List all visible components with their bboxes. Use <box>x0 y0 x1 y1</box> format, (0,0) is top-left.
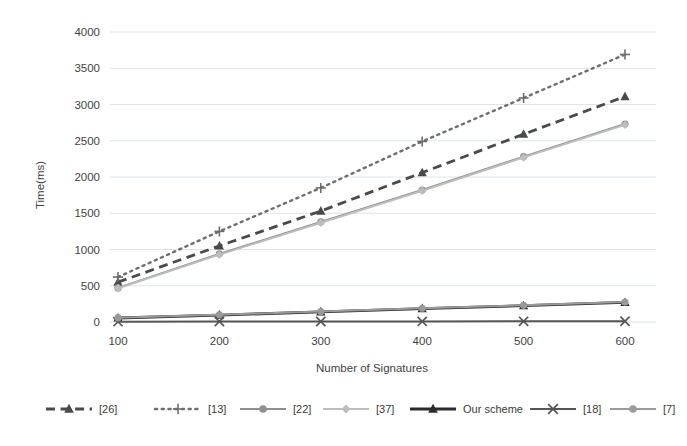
series-7 <box>114 298 628 321</box>
legend-item-37[interactable]: [37] <box>323 403 394 415</box>
chart-canvas: 05001000150020002500300035004000 1002003… <box>0 0 687 446</box>
data-point-marker <box>629 405 637 413</box>
series-line <box>118 54 625 277</box>
data-point-marker <box>215 250 223 258</box>
y-tick-label: 4000 <box>74 26 100 38</box>
series-13 <box>113 49 630 282</box>
legend-label: [7] <box>663 403 675 415</box>
x-tick-label: 200 <box>210 335 229 347</box>
data-point-marker <box>317 218 325 226</box>
data-point-marker <box>114 314 121 321</box>
chart-legend: [26][13][22][37]Our scheme[18][7] <box>46 403 675 415</box>
legend-item-22[interactable]: [22] <box>240 403 311 415</box>
data-point-marker <box>214 226 224 236</box>
series-26 <box>113 92 629 286</box>
y-tick-label: 2000 <box>74 171 100 183</box>
data-point-marker <box>519 129 528 138</box>
data-point-marker <box>316 206 325 215</box>
series-line <box>118 125 625 288</box>
series-37 <box>114 121 629 293</box>
y-tick-label: 1500 <box>74 207 100 219</box>
x-tick-label: 300 <box>311 335 330 347</box>
data-point-marker <box>419 305 426 312</box>
data-point-marker <box>417 136 427 146</box>
x-tick-label: 100 <box>108 335 127 347</box>
x-axis-title: Number of Signatures <box>316 362 428 374</box>
x-tick-label: 600 <box>615 335 634 347</box>
legend-label: [26] <box>99 403 117 415</box>
legend-label: [22] <box>293 403 311 415</box>
data-point-marker <box>317 308 324 315</box>
y-tick-label: 1000 <box>74 244 100 256</box>
y-tick-label: 3500 <box>74 62 100 74</box>
series-line <box>118 302 625 318</box>
legend-label: [37] <box>376 403 394 415</box>
series-18 <box>113 317 629 327</box>
legend-label: [18] <box>583 403 601 415</box>
data-point-marker <box>216 311 223 318</box>
data-point-marker <box>519 153 527 161</box>
y-axis-tick-labels: 05001000150020002500300035004000 <box>74 26 100 328</box>
data-point-marker <box>621 298 628 305</box>
data-point-marker <box>342 405 351 414</box>
legend-label: Our scheme <box>463 403 523 415</box>
data-point-marker <box>418 187 426 195</box>
data-point-marker <box>620 92 629 101</box>
legend-item-7[interactable]: [7] <box>610 403 675 415</box>
legend-label: [13] <box>208 403 226 415</box>
data-point-marker <box>520 302 527 309</box>
data-point-marker <box>173 404 184 415</box>
data-point-marker <box>519 93 529 103</box>
y-tick-label: 500 <box>81 280 100 292</box>
x-tick-label: 400 <box>413 335 432 347</box>
y-tick-label: 0 <box>94 316 100 328</box>
legend-item-18[interactable]: [18] <box>530 403 601 415</box>
data-point-marker <box>215 241 224 250</box>
legend-item-13[interactable]: [13] <box>155 403 226 415</box>
data-point-marker <box>621 121 629 129</box>
y-tick-label: 2500 <box>74 135 100 147</box>
x-tick-label: 500 <box>514 335 533 347</box>
y-tick-label: 3000 <box>74 99 100 111</box>
data-point-marker <box>259 405 267 413</box>
legend-item-26[interactable]: [26] <box>46 403 117 415</box>
data-point-marker <box>316 183 326 193</box>
series-line <box>118 97 625 283</box>
data-point-marker <box>620 49 630 59</box>
y-axis-title: Time(ms) <box>34 161 46 209</box>
data-series-layer <box>113 49 630 326</box>
x-axis-tick-labels: 100200300400500600 <box>108 335 634 347</box>
legend-item-our-scheme[interactable]: Our scheme <box>410 403 523 415</box>
